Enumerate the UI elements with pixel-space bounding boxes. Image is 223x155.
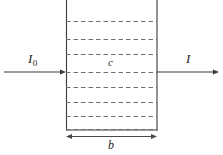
path-length-label: b — [108, 139, 114, 151]
transmitted-beam-label: I — [186, 52, 190, 65]
incident-beam-subscript: 0 — [32, 58, 37, 68]
dimension-arrowhead-right — [151, 134, 157, 139]
dimension-arrowhead-left — [66, 134, 72, 139]
incident-beam-arrowhead — [60, 69, 66, 74]
incident-beam-label: I0 — [28, 52, 37, 68]
figure-canvas: I0 I c b — [0, 0, 223, 155]
concentration-label: c — [108, 57, 113, 68]
sample-medium-dashed-lines — [66, 22, 157, 130]
incident-beam-arrow — [4, 69, 66, 74]
transmitted-beam-arrow — [157, 69, 219, 74]
transmitted-beam-arrowhead — [213, 69, 219, 74]
absorption-cell-diagram — [0, 0, 223, 155]
